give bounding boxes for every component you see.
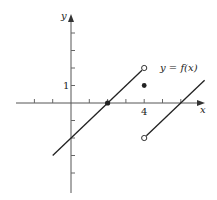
y-tick-label-1: 1 [63, 80, 69, 91]
x-tick-label-4: 4 [141, 106, 147, 117]
y-axis-label: y [60, 10, 67, 21]
right-segment [146, 80, 204, 136]
filled-point-2-0 [105, 100, 110, 105]
open-point-4-neg2 [142, 135, 147, 140]
y-axis-arrow-icon [68, 14, 74, 22]
filled-point-4-1 [142, 83, 147, 88]
x-axis-label: x [200, 104, 206, 115]
function-label: y = f(x) [159, 62, 198, 73]
function-graph: y x 1 4 y = f(x) [0, 0, 217, 200]
open-point-4-2 [142, 65, 147, 70]
